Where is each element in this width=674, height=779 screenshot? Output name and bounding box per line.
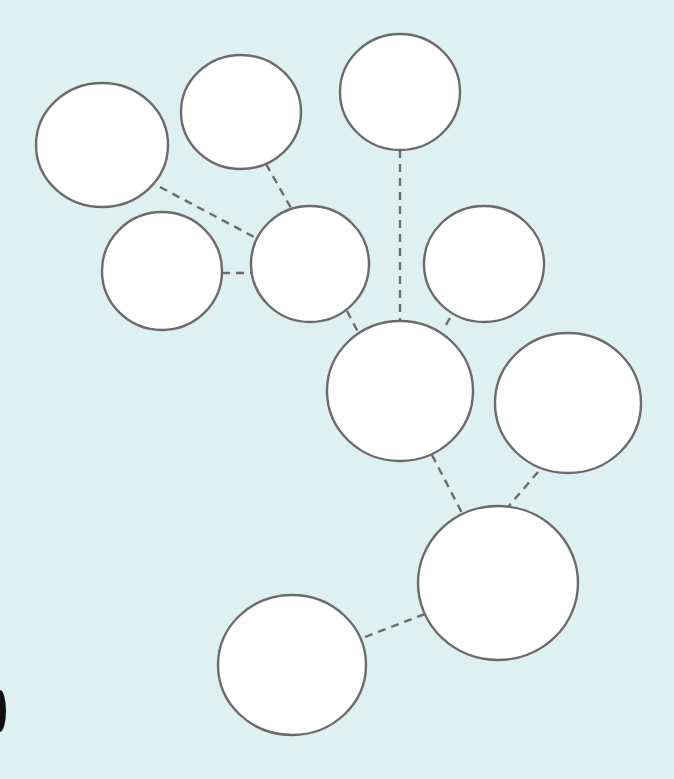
- concept-node-9[interactable]: [418, 506, 578, 660]
- concept-node-7[interactable]: [327, 321, 473, 461]
- dashed-connector-n6-n7: [443, 318, 450, 330]
- node-circle[interactable]: [495, 333, 641, 473]
- node-layer: [36, 34, 641, 735]
- node-circle[interactable]: [418, 506, 578, 660]
- concept-node-3[interactable]: [340, 34, 460, 150]
- artifact-layer: [0, 690, 6, 732]
- concept-web-diagram: [0, 0, 674, 779]
- node-circle[interactable]: [340, 34, 460, 150]
- node-circle[interactable]: [181, 55, 301, 169]
- dashed-connector-n10-n9: [365, 614, 425, 637]
- node-circle[interactable]: [218, 595, 366, 735]
- edge-shadow-artifact: [0, 690, 6, 732]
- concept-node-4[interactable]: [102, 212, 222, 330]
- node-circle[interactable]: [327, 321, 473, 461]
- dashed-connector-n8-n9: [508, 472, 538, 507]
- node-circle[interactable]: [424, 206, 544, 322]
- node-circle[interactable]: [36, 83, 168, 207]
- concept-node-6[interactable]: [424, 206, 544, 322]
- concept-node-1[interactable]: [36, 83, 168, 207]
- dashed-connector-n2-n5: [266, 164, 291, 208]
- dashed-connector-n7-n9: [432, 455, 462, 513]
- node-circle[interactable]: [251, 206, 369, 322]
- node-circle[interactable]: [102, 212, 222, 330]
- dashed-connector-n5-n7: [347, 311, 358, 332]
- concept-node-5[interactable]: [251, 206, 369, 322]
- concept-node-10[interactable]: [218, 595, 366, 735]
- concept-node-2[interactable]: [181, 55, 301, 169]
- concept-node-8[interactable]: [495, 333, 641, 473]
